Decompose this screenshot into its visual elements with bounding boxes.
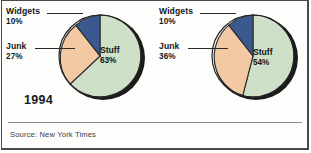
callout-widgets-1995-label: Widgets — [159, 7, 193, 17]
callout-junk-1994-label: Junk — [6, 42, 26, 52]
callout-widgets-1995: Widgets 10% — [159, 7, 193, 26]
leader-line-junk-1995 — [188, 48, 228, 49]
callout-junk-1995: Junk 36% — [159, 42, 179, 61]
year-label-1994: 1994 — [24, 93, 53, 107]
leader-line-widgets-1995 — [200, 13, 236, 14]
callout-junk-1994-value: 27% — [6, 52, 26, 61]
charts-row: Widgets 10% Junk 27% 1994 — [2, 1, 308, 119]
chart-1994: Widgets 10% Junk 27% 1994 — [2, 1, 155, 119]
leader-line-junk-1994 — [35, 48, 75, 49]
slice-label-stuff-1994-label: Stuff — [100, 46, 120, 56]
slice-label-stuff-1995-value: 54% — [253, 58, 273, 67]
figure-panel: Widgets 10% Junk 27% 1994 — [2, 1, 308, 149]
source-divider — [8, 122, 302, 123]
callout-widgets-1994-value: 10% — [6, 17, 40, 26]
pie-chart-figure: Widgets 10% Junk 27% 1994 — [0, 0, 311, 153]
chart-1995: Widgets 10% Junk 36% 1995 — [155, 1, 308, 119]
leader-line-widgets-1994 — [47, 13, 83, 14]
callout-widgets-1994-label: Widgets — [6, 7, 40, 17]
source-note: Source: New York Times — [10, 130, 96, 139]
slice-label-stuff-1995: Stuff 54% — [253, 48, 273, 67]
callout-widgets-1995-value: 10% — [159, 17, 193, 26]
callout-junk-1995-label: Junk — [159, 42, 179, 52]
callout-junk-1995-value: 36% — [159, 52, 179, 61]
slice-label-stuff-1994-value: 63% — [100, 56, 120, 65]
callout-junk-1994: Junk 27% — [6, 42, 26, 61]
slice-label-stuff-1995-label: Stuff — [253, 48, 273, 58]
slice-label-stuff-1994: Stuff 63% — [100, 46, 120, 65]
callout-widgets-1994: Widgets 10% — [6, 7, 40, 26]
